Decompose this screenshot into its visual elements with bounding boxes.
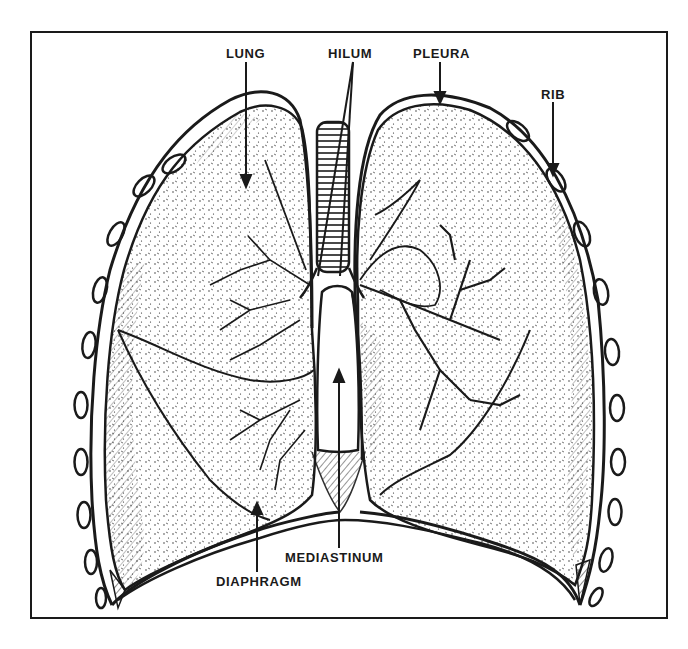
label-mediastinum: MEDIASTINUM <box>285 551 383 564</box>
label-pleura: PLEURA <box>413 47 470 60</box>
label-lung: LUNG <box>226 47 265 60</box>
label-diaphragm: DIAPHRAGM <box>216 575 302 588</box>
label-rib: RIB <box>541 88 565 101</box>
label-hilum: HILUM <box>328 47 372 60</box>
